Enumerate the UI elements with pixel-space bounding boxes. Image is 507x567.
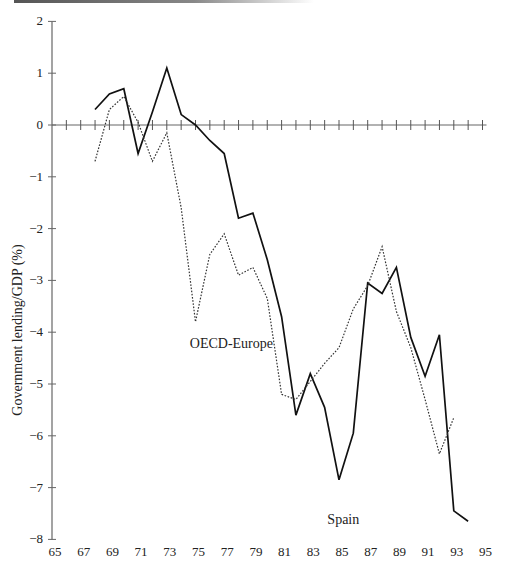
oecd-europe-line bbox=[95, 97, 454, 454]
line-chart: 210−1−2−3−4−5−6−7−8 65676971737577798183… bbox=[0, 0, 507, 567]
y-tick-label: −8 bbox=[29, 531, 43, 546]
x-tick-label: 75 bbox=[192, 544, 205, 559]
data-series bbox=[95, 68, 468, 521]
x-tick-label: 77 bbox=[221, 544, 235, 559]
x-tick-label: 79 bbox=[249, 544, 262, 559]
x-tick-label: 87 bbox=[364, 544, 378, 559]
x-tick-label: 73 bbox=[163, 544, 176, 559]
x-tick-label: 67 bbox=[77, 544, 91, 559]
y-tick-label: 0 bbox=[37, 117, 44, 132]
x-tick-label: 93 bbox=[450, 544, 463, 559]
x-tick-label: 83 bbox=[307, 544, 320, 559]
y-tick-label: −1 bbox=[29, 169, 43, 184]
x-tick-label: 69 bbox=[106, 544, 119, 559]
x-tick-label: 71 bbox=[135, 544, 148, 559]
x-tick-label: 95 bbox=[479, 544, 492, 559]
y-tick-label: −3 bbox=[29, 272, 43, 287]
y-tick-label: −2 bbox=[29, 221, 43, 236]
y-tick-label: −7 bbox=[29, 480, 43, 495]
oecd-europe-label: OECD-Europe bbox=[190, 336, 273, 351]
y-tick-label: 2 bbox=[37, 13, 44, 28]
axes bbox=[52, 21, 487, 539]
x-tick-label: 89 bbox=[393, 544, 406, 559]
annotations: OECD-EuropeSpain bbox=[190, 336, 359, 527]
y-axis-label: Government lending/GDP (%) bbox=[10, 244, 26, 416]
y-tick-label: −4 bbox=[29, 324, 43, 339]
spain-line bbox=[95, 68, 468, 521]
x-tick-label: 85 bbox=[336, 544, 349, 559]
x-tick-label: 91 bbox=[422, 544, 435, 559]
y-tick-label: 1 bbox=[37, 65, 44, 80]
y-tick-label: −5 bbox=[29, 376, 43, 391]
spain-label: Spain bbox=[327, 512, 359, 527]
x-tick-label: 81 bbox=[278, 544, 291, 559]
y-tick-label: −6 bbox=[29, 428, 43, 443]
x-tick-label: 65 bbox=[49, 544, 62, 559]
